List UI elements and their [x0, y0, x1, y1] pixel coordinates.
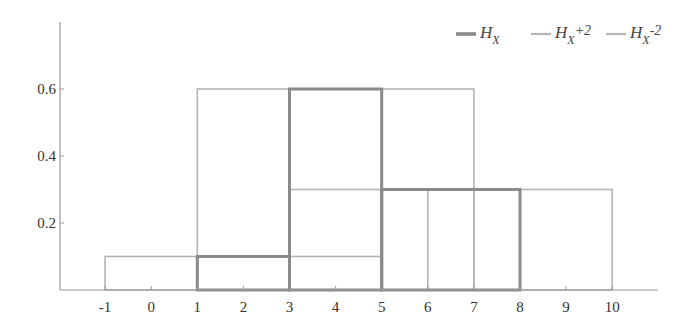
legend-label: HX	[479, 23, 500, 47]
x-tick-label: 3	[286, 299, 294, 315]
x-tick-label: 6	[424, 299, 432, 315]
bar-h-x-0	[197, 257, 289, 291]
bar-h-x-2	[382, 190, 520, 291]
x-tick-label: -1	[99, 299, 112, 315]
bar-h-x-2-2	[290, 190, 428, 291]
x-tick-label: 0	[147, 299, 155, 315]
x-tick-label: 4	[332, 299, 340, 315]
legend-label: HX+2	[554, 23, 591, 47]
bar-h-x-2-0	[290, 257, 382, 291]
x-tick-label: 10	[605, 299, 620, 315]
bar-h-x-2-2	[474, 190, 612, 291]
axes	[60, 22, 658, 290]
x-tick-label: 7	[470, 299, 478, 315]
y-tick-label: 0.6	[37, 81, 56, 97]
bars-layer	[105, 89, 612, 290]
x-tick-label: 5	[378, 299, 386, 315]
legend-label: HX-2	[629, 23, 661, 47]
x-tick-label: 2	[240, 299, 248, 315]
y-tick-label: 0.2	[37, 215, 56, 231]
x-tick-label: 8	[516, 299, 524, 315]
y-tick-label: 0.4	[37, 148, 56, 164]
x-tick-label: 9	[562, 299, 570, 315]
histogram-chart: -1012345678910 0.20.40.6 HXHX+2HX-2	[0, 0, 687, 332]
bar-h-x-2-1	[197, 89, 289, 290]
x-tick-label: 1	[194, 299, 202, 315]
legend: HXHX+2HX-2	[456, 23, 661, 47]
bar-h-x-2-0	[105, 257, 197, 291]
